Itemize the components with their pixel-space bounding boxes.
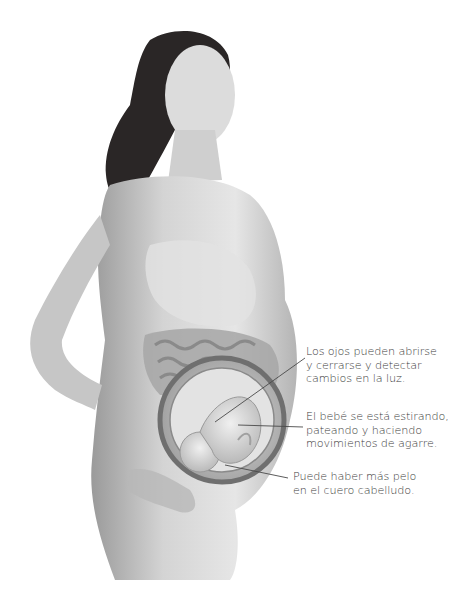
annotation-hair: Puede haber más pelo en el cuero cabellu…	[293, 470, 416, 497]
annotation-hair-line-1: Puede haber más pelo	[293, 470, 416, 484]
annotation-movement-line-3: movimientos de agarre.	[306, 437, 449, 451]
annotation-movement: El bebé se está estirando, pateando y ha…	[306, 410, 449, 451]
annotation-eyes-line-3: cambios en la luz.	[306, 372, 437, 386]
annotation-eyes-line-1: Los ojos pueden abrirse	[306, 345, 437, 359]
annotation-eyes: Los ojos pueden abrirse y cerrarse y det…	[306, 345, 437, 386]
annotation-hair-line-2: en el cuero cabelludo.	[293, 484, 416, 498]
annotation-eyes-line-2: y cerrarse y detectar	[306, 359, 437, 373]
annotation-movement-line-2: pateando y haciendo	[306, 424, 449, 438]
annotation-movement-line-1: El bebé se está estirando,	[306, 410, 449, 424]
pregnancy-illustration	[0, 0, 459, 601]
